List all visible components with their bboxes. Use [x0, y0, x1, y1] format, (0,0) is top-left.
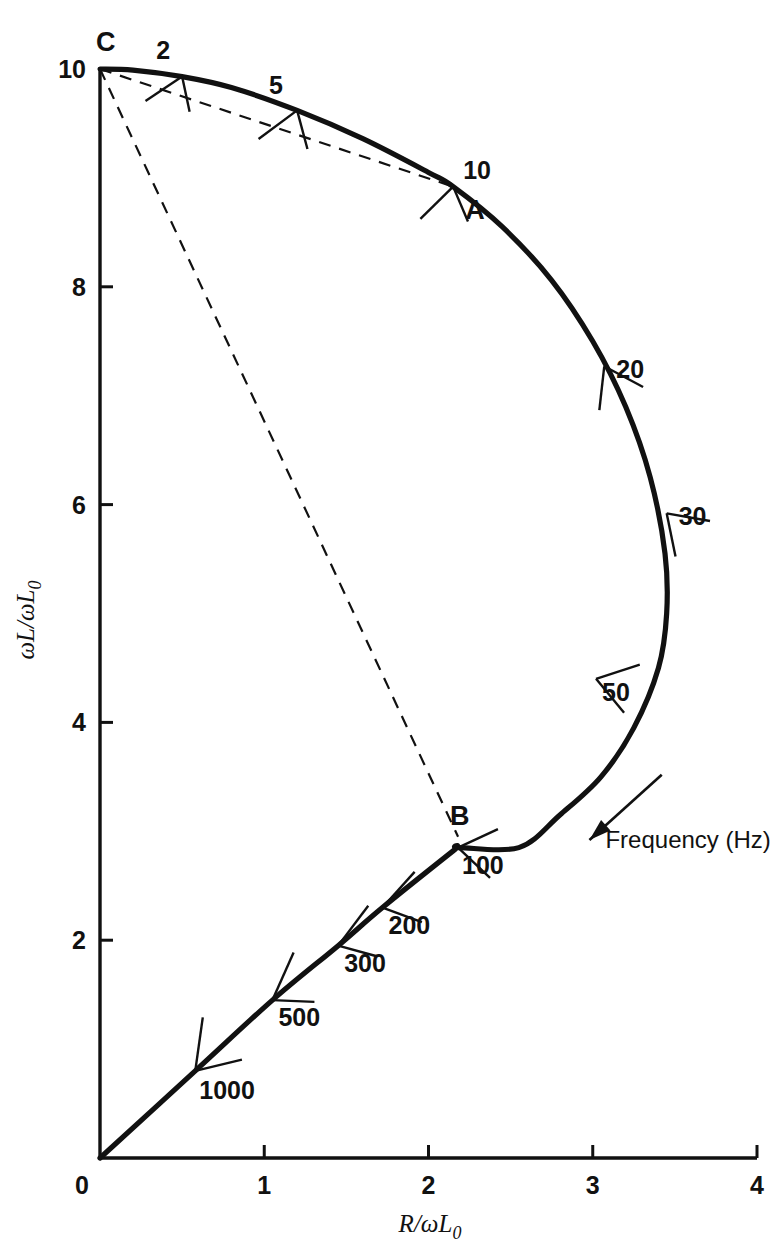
frequency-label-300: 300 — [344, 949, 386, 977]
marker-tick-right — [145, 77, 182, 101]
frequency-arrow-label: Frequency (Hz) — [605, 826, 770, 853]
frequency-label-50: 50 — [602, 678, 630, 706]
frequency-label-200: 200 — [389, 911, 431, 939]
frequency-marker-30: 30 — [667, 502, 710, 556]
y-tick-label-2: 2 — [72, 926, 86, 954]
x-tick-label-2: 2 — [422, 1171, 436, 1199]
marker-tick-left — [458, 829, 498, 848]
frequency-label-100: 100 — [462, 851, 504, 879]
point-label-c: C — [96, 27, 116, 57]
marker-tick-left — [182, 77, 189, 112]
frequency-label-2: 2 — [156, 36, 170, 64]
frequency-arrow: Frequency (Hz) — [589, 775, 770, 853]
marker-tick-right — [420, 187, 453, 219]
plot-canvas: 01234246810 25102030501002003005001000 A… — [0, 0, 781, 1245]
y-tick-label-4: 4 — [72, 708, 86, 736]
series-dashed-chord-C-B — [100, 69, 458, 837]
annotation-layer: ABCFrequency (Hz) — [96, 27, 771, 853]
axis-lines — [100, 69, 757, 1158]
marker-tick-right — [599, 366, 604, 410]
frequency-label-10: 10 — [463, 156, 491, 184]
frequency-label-1000: 1000 — [199, 1076, 255, 1104]
point-label-a: A — [465, 195, 485, 225]
marker-tick-left — [383, 872, 415, 908]
marker-tick-left — [596, 665, 640, 679]
x-axis-title: R/ωL0 — [398, 1210, 462, 1243]
frequency-marker-50: 50 — [596, 665, 640, 713]
x-tick-label-1: 1 — [257, 1171, 271, 1199]
x-tick-label-4: 4 — [750, 1171, 764, 1199]
frequency-marker-layer: 25102030501002003005001000 — [145, 36, 710, 1104]
frequency-label-5: 5 — [269, 71, 283, 99]
marker-tick-right — [272, 1000, 314, 1002]
frequency-label-30: 30 — [679, 502, 707, 530]
frequency-label-500: 500 — [278, 1003, 320, 1031]
impedance-locus-figure: 01234246810 25102030501002003005001000 A… — [0, 0, 781, 1245]
frequency-marker-100: 100 — [458, 829, 504, 879]
frequency-label-20: 20 — [616, 355, 644, 383]
axes-layer: 01234246810 — [58, 55, 764, 1199]
curve-layer — [100, 69, 667, 1158]
marker-tick-right — [667, 513, 676, 556]
y-tick-label-10: 10 — [58, 55, 86, 83]
series-impedance-locus — [100, 69, 667, 1158]
y-tick-label-8: 8 — [72, 273, 86, 301]
point-label-b: B — [450, 801, 470, 831]
y-tick-label-6: 6 — [72, 491, 86, 519]
x-tick-label-3: 3 — [586, 1171, 600, 1199]
y-axis-title: ωL/ωL0 — [12, 580, 45, 659]
frequency-marker-200: 200 — [383, 872, 431, 939]
x-tick-label-0: 0 — [75, 1171, 89, 1199]
